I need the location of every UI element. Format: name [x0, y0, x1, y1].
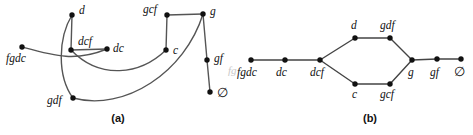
node-empty[interactable]: [207, 89, 212, 94]
node-dcf[interactable]: [317, 57, 322, 62]
node-d[interactable]: [352, 35, 357, 40]
node-label-gcf: gcf: [380, 88, 396, 101]
figure-container: fgdcddcfdcgdfgcfgcgf∅ fgdcdcdcfdgdfcgcfg…: [0, 0, 473, 135]
node-label-c: c: [173, 44, 178, 56]
edge-gdf-g: [390, 38, 412, 60]
edge-g-gf: [412, 59, 437, 60]
edge-gdf-g: [73, 14, 203, 101]
panel-a-caption: (a): [111, 112, 125, 124]
node-g[interactable]: [200, 11, 205, 16]
node-g[interactable]: [409, 57, 414, 62]
node-gf[interactable]: [204, 57, 209, 62]
node-empty[interactable]: [458, 56, 463, 61]
panel-b-nodes: [248, 35, 463, 86]
node-label-gcf: gcf: [143, 3, 159, 16]
artifact-bleed-fg: fg: [228, 64, 237, 76]
scan-artifacts: fg: [228, 64, 237, 76]
node-dcf[interactable]: [68, 47, 73, 52]
node-label-d: d: [351, 19, 357, 31]
edge-g-gf: [203, 14, 207, 60]
edge-fgdc-dc: [22, 47, 107, 57]
node-label-g: g: [210, 5, 216, 18]
node-c[interactable]: [163, 47, 168, 52]
panel-a-nodes: [19, 11, 212, 100]
node-label-empty: ∅: [454, 65, 465, 79]
panel-a-labels: fgdcddcfdcgdfgcfgcgf∅: [6, 3, 228, 107]
node-label-d: d: [79, 4, 85, 16]
node-fgdc[interactable]: [19, 44, 24, 49]
node-label-dcf: dcf: [78, 35, 94, 48]
node-label-empty: ∅: [217, 86, 228, 100]
node-label-dcf: dcf: [310, 66, 326, 79]
edge-gcf-c: [166, 15, 167, 50]
edge-dcf-d: [320, 38, 355, 60]
node-label-gdf: gdf: [47, 94, 64, 107]
node-fgdc[interactable]: [248, 57, 253, 62]
node-label-gdf: gdf: [380, 19, 397, 32]
node-gdf[interactable]: [70, 95, 75, 100]
node-dc[interactable]: [104, 46, 109, 51]
node-gdf[interactable]: [387, 35, 392, 40]
edge-dcf-dc: [71, 49, 107, 50]
node-gcf[interactable]: [164, 12, 169, 17]
node-label-fgdc: fgdc: [6, 52, 26, 65]
node-dc[interactable]: [282, 57, 287, 62]
node-label-gf: gf: [430, 66, 441, 79]
node-label-dc: dc: [276, 66, 287, 78]
node-label-dc: dc: [113, 42, 124, 54]
node-label-g: g: [408, 66, 414, 79]
node-label-c: c: [352, 88, 357, 100]
node-label-fgdc: fgdc: [237, 66, 257, 79]
edge-gcf-g: [167, 14, 203, 15]
panel-a-edges: [22, 14, 210, 101]
edge-dcf-c: [320, 60, 355, 84]
node-c[interactable]: [352, 81, 357, 86]
node-d[interactable]: [69, 12, 74, 17]
edge-gf-empty: [207, 60, 210, 92]
panel-b-caption: (b): [363, 112, 377, 124]
edge-d-dcf: [71, 15, 72, 50]
node-gf[interactable]: [434, 56, 439, 61]
figure-svg: fgdcddcfdcgdfgcfgcgf∅ fgdcdcdcfdgdfcgcfg…: [0, 0, 473, 135]
node-gcf[interactable]: [387, 81, 392, 86]
node-label-gf: gf: [214, 52, 225, 65]
